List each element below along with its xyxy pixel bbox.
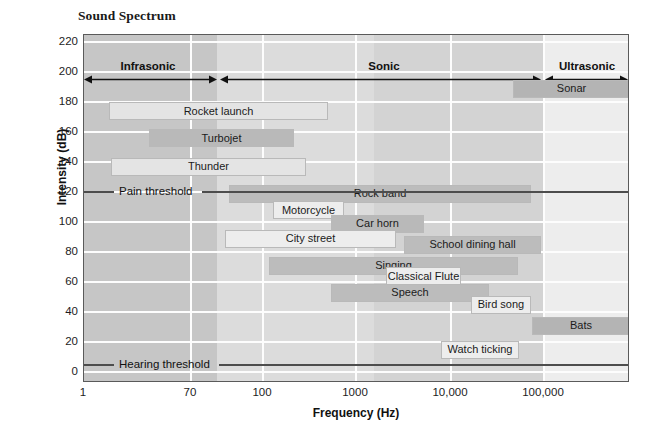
y-tick-label-100: 100 [38, 215, 78, 227]
x-axis-title: Frequency (Hz) [83, 406, 629, 420]
region-label-sonic: Sonic [368, 60, 399, 72]
bar-speech: Speech [331, 284, 489, 302]
threshold-line-pain-threshold-0 [84, 191, 114, 193]
bar-label: Speech [391, 287, 428, 298]
gridline-x-100 [262, 35, 264, 381]
sound-spectrum-chart: Sound Spectrum Intensity (dB) 2202001801… [0, 0, 653, 436]
bar-label: Turbojet [202, 133, 242, 144]
bar-classical-flute: Classical Flute [386, 267, 461, 285]
bar-label: Bird song [478, 299, 524, 310]
y-tick-label-0: 0 [38, 365, 78, 377]
gridline-x-70 [190, 35, 192, 381]
x-axis-tick-labels: 170100100010,000100,000 [83, 386, 629, 404]
y-tick-label-20: 20 [38, 335, 78, 347]
bar-watch-ticking: Watch ticking [441, 341, 519, 359]
y-tick-label-120: 120 [38, 185, 78, 197]
bar-label: Sonar [557, 83, 586, 94]
y-tick-label-60: 60 [38, 275, 78, 287]
x-tick-label-100: 100 [252, 386, 271, 398]
threshold-label-hearing-threshold: Hearing threshold [116, 359, 213, 371]
region-arrow-sonic [220, 75, 541, 84]
bar-label: School dining hall [429, 239, 515, 250]
x-tick-label-70: 70 [184, 386, 197, 398]
x-tick-label-1: 1 [80, 386, 86, 398]
bar-bats: Bats [532, 317, 629, 335]
plot-area: InfrasonicSonicUltrasonic Rocket launchS… [83, 34, 629, 382]
y-tick-label-220: 220 [38, 35, 78, 47]
y-tick-label-140: 140 [38, 155, 78, 167]
background-band-0 [84, 35, 217, 381]
threshold-line-hearing-threshold-1 [219, 364, 629, 366]
page-title: Sound Spectrum [78, 8, 176, 24]
y-tick-label-180: 180 [38, 95, 78, 107]
x-tick-label-1000: 1000 [342, 386, 368, 398]
y-tick-label-200: 200 [38, 65, 78, 77]
bar-label: Rocket launch [184, 106, 254, 117]
bar-city-street: City street [225, 230, 396, 248]
bar-thunder: Thunder [111, 158, 306, 176]
bar-turbojet: Turbojet [149, 129, 294, 147]
threshold-line-pain-threshold-1 [202, 191, 629, 193]
y-tick-label-40: 40 [38, 305, 78, 317]
bar-label: City street [286, 233, 336, 244]
region-label-ultrasonic: Ultrasonic [559, 60, 615, 72]
x-tick-label-100,000: 100,000 [522, 386, 564, 398]
bar-label: Thunder [188, 161, 229, 172]
bar-label: Watch ticking [447, 344, 512, 355]
bar-rock-band: Rock band [229, 185, 531, 203]
y-tick-label-160: 160 [38, 125, 78, 137]
bar-bird-song: Bird song [471, 296, 531, 314]
region-label-infrasonic: Infrasonic [121, 60, 176, 72]
bar-sonar: Sonar [513, 80, 629, 98]
y-axis-tick-labels: 220200180160140120100806040200 [36, 34, 78, 382]
gridline-x-10,000 [450, 35, 452, 381]
y-tick-label-80: 80 [38, 245, 78, 257]
bar-label: Motorcycle [282, 205, 335, 216]
gridline-x-1000 [355, 35, 357, 381]
threshold-label-pain-threshold: Pain threshold [116, 186, 196, 198]
bar-school-dining-hall: School dining hall [404, 236, 541, 254]
region-arrow-infrasonic [84, 75, 217, 84]
threshold-line-hearing-threshold-0 [84, 364, 114, 366]
bar-label: Bats [570, 320, 592, 331]
bar-label: Car horn [356, 218, 399, 229]
bar-label: Rock band [354, 188, 407, 199]
x-tick-label-10,000: 10,000 [432, 386, 467, 398]
bar-rocket-launch: Rocket launch [109, 102, 328, 120]
bar-label: Classical Flute [388, 271, 460, 282]
